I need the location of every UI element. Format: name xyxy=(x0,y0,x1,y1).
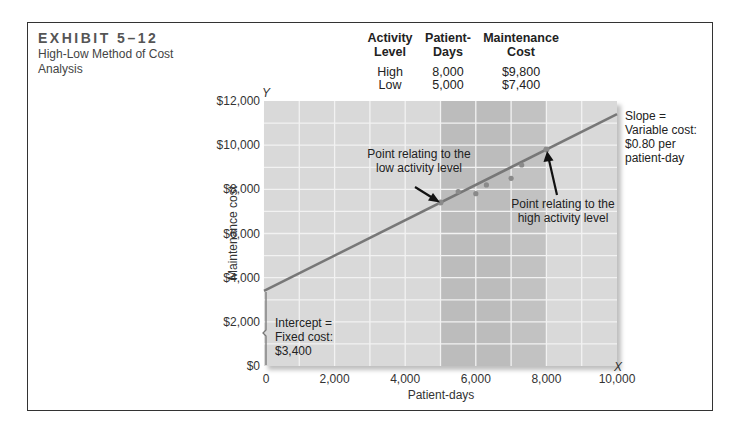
high-point xyxy=(543,147,549,153)
svg-text:Variable cost:: Variable cost: xyxy=(625,123,697,137)
svg-text:$2,000: $2,000 xyxy=(223,315,260,329)
svg-text:4,000: 4,000 xyxy=(390,372,420,386)
svg-text:2,000: 2,000 xyxy=(320,372,350,386)
svg-text:Intercept =: Intercept = xyxy=(275,316,332,330)
x-axis-title: Patient-days xyxy=(408,388,475,402)
svg-text:Slope =: Slope = xyxy=(625,109,666,123)
svg-text:6,000: 6,000 xyxy=(461,372,491,386)
x-axis-letter: X xyxy=(613,360,623,374)
svg-text:$10,000: $10,000 xyxy=(217,138,261,152)
high-point-label: Point relating to the high activity leve… xyxy=(511,197,615,225)
svg-text:0: 0 xyxy=(263,372,270,386)
svg-text:high activity level: high activity level xyxy=(518,211,609,225)
x-axis-ticks: 0 2,000 4,000 6,000 8,000 10,000 xyxy=(263,372,636,386)
svg-text:10,000: 10,000 xyxy=(599,372,636,386)
y-axis-letter: Y xyxy=(262,86,271,100)
svg-text:8,000: 8,000 xyxy=(531,372,561,386)
svg-text:patient-day: patient-day xyxy=(625,151,684,165)
svg-text:Point relating to the: Point relating to the xyxy=(367,147,471,161)
svg-text:Fixed cost:: Fixed cost: xyxy=(275,330,333,344)
svg-text:$3,400: $3,400 xyxy=(275,344,312,358)
chart: $12,000 $10,000 $8,000 $6,000 $4,000 $2,… xyxy=(0,0,743,447)
y-axis-title: Maintenance cost xyxy=(226,185,240,280)
slope-annotation: Slope = Variable cost: $0.80 per patient… xyxy=(625,109,697,165)
svg-text:$12,000: $12,000 xyxy=(217,94,261,108)
low-point-label: Point relating to the low activity level xyxy=(367,147,471,175)
svg-text:Point relating to the: Point relating to the xyxy=(511,197,615,211)
svg-text:$0: $0 xyxy=(247,359,261,373)
svg-text:low activity level: low activity level xyxy=(376,161,462,175)
svg-text:$0.80 per: $0.80 per xyxy=(625,137,676,151)
